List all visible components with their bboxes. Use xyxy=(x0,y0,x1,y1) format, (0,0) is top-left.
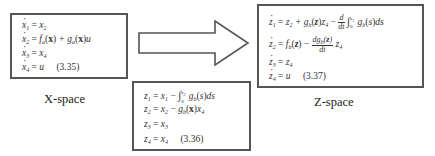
z-space-equation-box: z1 = z2 + gb(z)z4 − ddt ∫x30 gb(s)ds z2 … xyxy=(257,4,424,88)
z-def-2: z2 = x2 − gb(x)x4 xyxy=(144,105,204,115)
equation-number-3-37: (3.37) xyxy=(303,71,326,81)
equation-number-3-36: (3.36) xyxy=(180,134,203,144)
x-space-equation-box: x1 = x2 x2 = fa(x) + ga(x)u x3 = x4 x4 =… xyxy=(10,13,128,79)
z-def-1: z1 = x1 − ∫x30 gb(s)ds xyxy=(144,89,215,105)
z-eq-4: z4 = u (3.37) xyxy=(269,72,326,82)
transform-equation-box: z1 = x1 − ∫x30 gb(s)ds z2 = x2 − gb(x)x4… xyxy=(132,81,251,151)
transform-arrow-icon xyxy=(138,20,250,66)
x-eq-2: x2 = fa(x) + ga(x)u xyxy=(22,35,91,45)
z-space-label: Z-space xyxy=(314,95,354,110)
z-def-3: z3 = x3 xyxy=(144,120,168,130)
equation-number-3-35: (3.35) xyxy=(56,62,79,72)
z-eq-1: z1 = z2 + gb(z)z4 − ddt ∫x30 gb(s)ds xyxy=(269,14,384,31)
x-eq-4: x4 = u (3.35) xyxy=(22,63,79,73)
z-def-4: z4 = x4 (3.36) xyxy=(144,135,203,145)
z-eq-2: z2 = fb(z) − dgb(z)dt z4 xyxy=(269,36,342,54)
x-space-label: X-space xyxy=(44,92,85,107)
